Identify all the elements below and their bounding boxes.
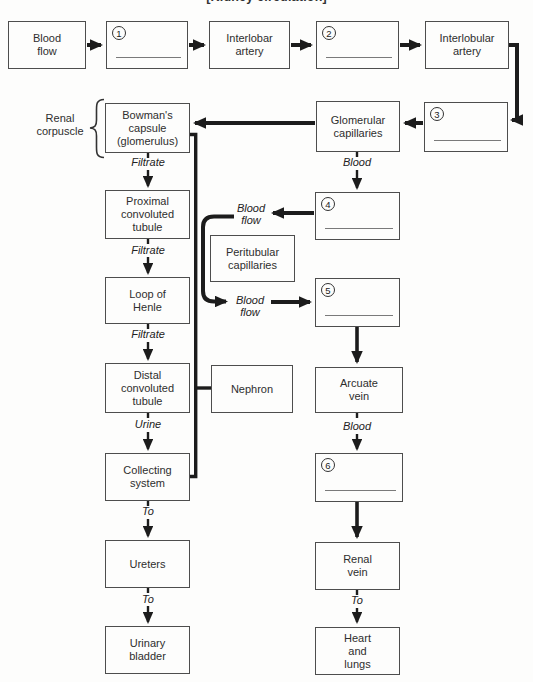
box-blank-2[interactable]: 2 xyxy=(316,21,399,69)
box-blank-6[interactable]: 6 xyxy=(315,453,403,502)
box-heart-lungs-label: Heart and lungs xyxy=(344,632,371,671)
renal-corpuscle-label: Renal corpuscle xyxy=(36,112,83,138)
box-distal-tubule: Distal convoluted tubule xyxy=(105,363,190,413)
box-renal-vein-label: Renal vein xyxy=(343,553,372,579)
box-glomerular-capillaries-label: Glomerular capillaries xyxy=(331,114,385,140)
circled-number-6: 6 xyxy=(321,458,335,472)
box-urinary-bladder: Urinary bladder xyxy=(105,626,190,674)
box-nephron: Nephron xyxy=(211,365,293,413)
box-proximal-tubule-label: Proximal convoluted tubule xyxy=(121,195,174,234)
label-blood-flow-upper: Blood flow xyxy=(237,203,265,226)
box-loop-of-henle-label: Loop of Henle xyxy=(129,288,166,314)
box-arcuate-vein: Arcuate vein xyxy=(315,367,403,413)
arrow-interlobular-to-blank3 xyxy=(509,45,517,120)
circled-number-5: 5 xyxy=(321,283,335,297)
box-blank-5[interactable]: 5 xyxy=(315,278,400,327)
page-title: [Kidney circulation] xyxy=(0,0,533,4)
box-distal-tubule-label: Distal convoluted tubule xyxy=(121,369,174,408)
box-bowmans-capsule-label: Bowman's capsule (glomerulus) xyxy=(117,109,178,148)
box-urinary-bladder-label: Urinary bladder xyxy=(129,637,166,663)
label-filtrate-1: Filtrate xyxy=(131,157,165,169)
label-blood-1: Blood xyxy=(343,157,371,169)
box-renal-vein: Renal vein xyxy=(315,542,400,590)
box-collecting-system-label: Collecting system xyxy=(123,464,171,490)
box-blank-3[interactable]: 3 xyxy=(424,102,508,152)
box-ureters-label: Ureters xyxy=(129,558,165,571)
box-blood-flow: Blood flow xyxy=(8,21,86,69)
circled-number-1: 1 xyxy=(112,26,126,40)
renal-corpuscle-brace xyxy=(90,100,104,158)
label-urine: Urine xyxy=(135,419,161,431)
blank-line-2[interactable] xyxy=(326,57,392,58)
box-heart-lungs: Heart and lungs xyxy=(315,627,400,675)
box-collecting-system: Collecting system xyxy=(105,453,190,501)
label-filtrate-2: Filtrate xyxy=(131,245,165,257)
blank-line-5[interactable] xyxy=(325,315,393,316)
nephron-bracket-line xyxy=(190,135,196,477)
circled-number-3: 3 xyxy=(430,107,444,121)
label-blood-flow-lower: Blood flow xyxy=(236,295,264,318)
box-nephron-label: Nephron xyxy=(231,383,273,396)
box-ureters: Ureters xyxy=(105,540,190,588)
blank-line-6[interactable] xyxy=(325,490,396,491)
blank-line-4[interactable] xyxy=(325,228,393,229)
blank-line-1[interactable] xyxy=(116,57,181,58)
box-interlobar-artery: Interlobar artery xyxy=(209,21,290,69)
box-blank-1[interactable]: 1 xyxy=(106,21,188,69)
label-blood-2: Blood xyxy=(343,421,371,433)
box-blank-4[interactable]: 4 xyxy=(315,192,400,240)
circled-number-2: 2 xyxy=(322,26,336,40)
blank-line-3[interactable] xyxy=(434,140,501,141)
box-peritubular-capillaries-label: Peritubular capillaries xyxy=(226,246,279,272)
label-to-3: To xyxy=(351,595,363,607)
box-proximal-tubule: Proximal convoluted tubule xyxy=(105,190,190,239)
box-peritubular-capillaries: Peritubular capillaries xyxy=(210,235,295,282)
box-loop-of-henle: Loop of Henle xyxy=(105,277,190,324)
box-interlobular-artery-label: Interlobular artery xyxy=(439,32,494,58)
circled-number-4: 4 xyxy=(321,197,335,211)
box-interlobar-artery-label: Interlobar artery xyxy=(226,32,272,58)
box-bowmans-capsule: Bowman's capsule (glomerulus) xyxy=(105,103,190,153)
label-to-1: To xyxy=(142,506,154,518)
label-filtrate-3: Filtrate xyxy=(131,329,165,341)
box-arcuate-vein-label: Arcuate vein xyxy=(340,377,378,403)
label-to-2: To xyxy=(142,594,154,606)
box-glomerular-capillaries: Glomerular capillaries xyxy=(316,101,400,152)
box-interlobular-artery: Interlobular artery xyxy=(425,21,509,69)
kidney-circulation-diagram: [Kidney circulation] Renal corpuscle Blo… xyxy=(0,0,533,682)
box-blood-flow-label: Blood flow xyxy=(33,32,61,58)
